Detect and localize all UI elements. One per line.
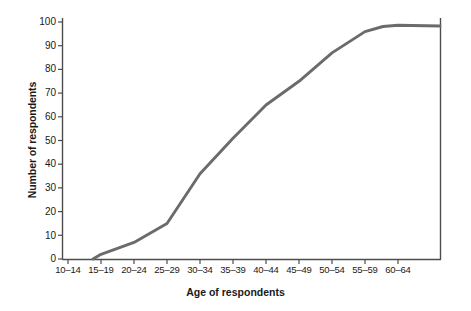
- chart-container: Number of respondents Age of respondents…: [0, 0, 471, 311]
- data-line-number-of-respondents: [93, 25, 440, 259]
- plot-area: [0, 0, 471, 311]
